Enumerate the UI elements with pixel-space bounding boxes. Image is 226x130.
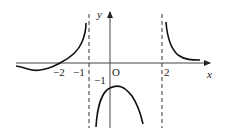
tick-label-x-neg2: −2 (53, 66, 65, 78)
function-graph: y x O −2 −1 2 −1 (0, 0, 226, 130)
x-axis-label: x (206, 68, 212, 80)
y-axis-label: y (96, 8, 102, 20)
origin-label: O (112, 66, 120, 78)
curve-middle-branch (96, 86, 143, 127)
tick-label-x-2: 2 (164, 66, 170, 78)
curve-right-branch (166, 22, 200, 60)
tick-label-x-neg1: −1 (73, 66, 85, 78)
tick-label-y-neg1: −1 (94, 74, 106, 86)
